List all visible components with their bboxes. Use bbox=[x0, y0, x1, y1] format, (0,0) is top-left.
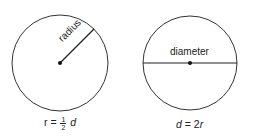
diameter-formula: d = 2r bbox=[176, 118, 203, 130]
formula-eq: = bbox=[185, 118, 191, 130]
center-point bbox=[188, 61, 192, 65]
formula-var: r bbox=[44, 116, 48, 128]
formula-var: d bbox=[176, 118, 182, 130]
center-point bbox=[58, 61, 62, 65]
formula-var: r bbox=[200, 118, 204, 130]
radius-formula: r = 1 2 d bbox=[44, 116, 76, 131]
circle-diagrams bbox=[0, 0, 253, 136]
formula-eq: = bbox=[50, 116, 56, 128]
fraction: 1 2 bbox=[60, 116, 66, 131]
formula-var: d bbox=[70, 116, 76, 128]
radius-circle bbox=[12, 15, 108, 111]
diameter-label: diameter bbox=[170, 46, 209, 57]
diameter-circle bbox=[143, 16, 237, 110]
